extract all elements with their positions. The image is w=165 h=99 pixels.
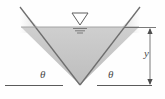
arrow-down-icon: [147, 79, 152, 85]
angle-label-right: θ: [108, 69, 113, 80]
diagram-canvas: [0, 0, 165, 99]
water-fill-region: [21, 27, 139, 85]
angle-label-left: θ: [40, 69, 45, 80]
arrow-up-icon: [147, 28, 152, 34]
depth-label: y: [144, 48, 149, 59]
triangular-channel-diagram: θ θ y: [0, 0, 165, 99]
water-table-triangle-icon: [72, 13, 88, 25]
